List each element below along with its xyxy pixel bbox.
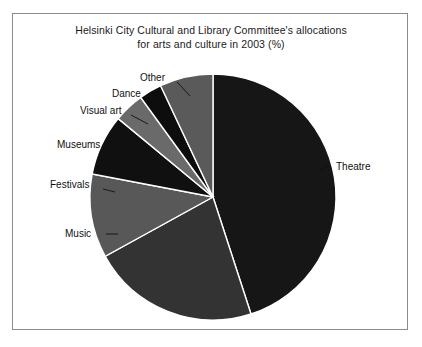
pie-chart-figure: Helsinki City Cultural and Library Commi… [0,0,422,347]
pie-label-visual-art: Visual art [80,105,122,116]
pie-label-dance: Dance [112,88,141,99]
pie-plot [0,0,422,347]
pie-label-other: Other [140,72,165,83]
pie-label-music: Music [65,228,91,239]
pie-label-festivals: Festivals [50,179,89,190]
pie-slices [90,74,336,320]
pie-label-theatre: Theatre [336,161,370,172]
pie-label-museums: Museums [57,139,100,150]
